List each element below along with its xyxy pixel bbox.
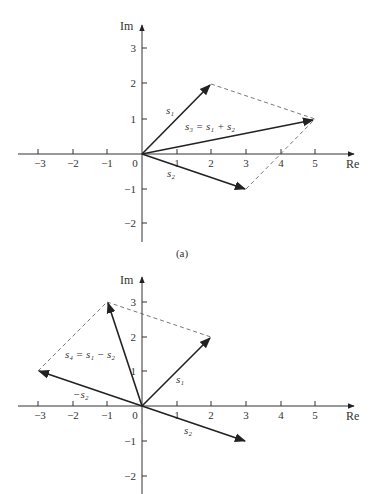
y-tick-label: 1 [131,113,137,125]
x-tick-label: −2 [67,157,79,169]
caption-a: (a) [176,247,189,260]
x-tick-label: −1 [101,409,113,421]
neg-s2-label: −s₂ [73,388,89,400]
plot-a: −3 −2 −1 0 1 2 3 4 5 3 2 1 −1 −2 Im Re s… [18,19,359,260]
y-axis-label: Im [120,19,134,33]
x-ticks [38,149,315,154]
x-axis-label: Re [346,409,359,423]
y-tick-label: −2 [124,217,136,229]
vector-s2 [142,406,245,441]
vector-s1 [142,338,210,406]
vector-neg-s2 [39,371,142,406]
y-tick-label: −1 [124,183,136,195]
s2-label: s₂ [184,424,192,436]
origin-label: 0 [132,409,138,421]
s1-label: s₁ [176,373,184,385]
dashed-edge [107,302,211,337]
x-tick-label: −3 [34,409,46,421]
y-tick-label: 3 [131,296,137,308]
x-tick-label: 3 [243,409,249,421]
dashed-edge [38,302,107,371]
x-tick-label: 4 [278,157,284,169]
s3-label: s₃ = s₁ + s₂ [185,120,235,132]
x-tick-label: 4 [278,409,284,421]
x-ticks [38,401,315,406]
figure: −3 −2 −1 0 1 2 3 4 5 3 2 1 −1 −2 Im Re s… [0,0,375,494]
s2-label: s₂ [167,167,175,179]
x-tick-label: 3 [243,157,249,169]
y-ticks [142,302,147,476]
origin-label: 0 [132,157,138,169]
x-tick-label: 2 [208,157,214,169]
dashed-edge [211,84,315,119]
y-tick-label: −1 [124,435,136,447]
y-axis-label: Im [120,273,134,287]
x-tick-label: −2 [67,409,79,421]
x-tick-label: −3 [34,157,46,169]
y-tick-label: 2 [131,331,137,343]
x-tick-label: 2 [208,409,214,421]
plot-b: −3 −2 −1 0 1 2 3 4 5 3 2 1 −1 −2 Im Re s… [18,273,359,494]
y-tick-label: −2 [124,470,136,482]
s1-label: s₁ [166,104,174,116]
x-tick-label: 5 [312,157,318,169]
y-ticks [142,48,147,223]
x-tick-label: 5 [312,409,318,421]
vector-s2 [142,154,245,189]
y-tick-label: 3 [131,42,137,54]
s4-label: s₄ = s₁ − s₂ [65,348,115,360]
x-tick-label: −1 [101,157,113,169]
y-tick-label: 2 [131,77,137,89]
x-axis-label: Re [346,157,359,171]
